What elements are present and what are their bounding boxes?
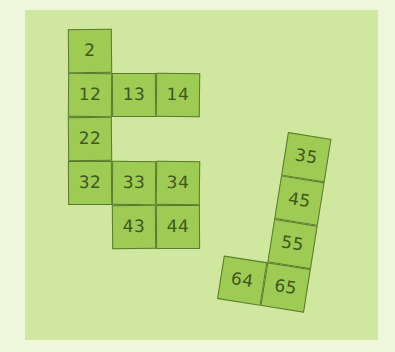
cell-label: 64 (230, 270, 255, 290)
cell-44[interactable]: 44 (156, 205, 200, 249)
cell-13[interactable]: 13 (112, 73, 156, 117)
cell-label: 43 (123, 217, 146, 234)
cell-14[interactable]: 14 (156, 73, 200, 117)
cell-35[interactable]: 35 (281, 132, 331, 182)
cell-34[interactable]: 34 (156, 161, 200, 205)
cell-label: 35 (294, 146, 319, 166)
cell-label: 44 (167, 217, 190, 234)
cell-label: 14 (167, 85, 190, 102)
cell-label: 12 (79, 85, 102, 102)
cell-32[interactable]: 32 (68, 161, 112, 205)
cell-label: 45 (287, 189, 312, 209)
cell-label: 32 (79, 173, 102, 190)
worksheet-panel: 2 12 13 14 22 32 33 34 (25, 10, 378, 340)
cell-65[interactable]: 65 (260, 262, 310, 312)
cell-45[interactable]: 45 (274, 175, 324, 225)
cell-12[interactable]: 12 (68, 73, 112, 117)
cell-label: 13 (123, 85, 146, 102)
cell-2[interactable]: 2 (68, 29, 112, 73)
cell-64[interactable]: 64 (217, 255, 267, 305)
cell-22[interactable]: 22 (68, 117, 112, 161)
cell-label: 34 (167, 173, 190, 190)
cell-label: 55 (280, 233, 305, 253)
cell-33[interactable]: 33 (112, 161, 156, 205)
cell-43[interactable]: 43 (112, 205, 156, 249)
cell-label: 2 (84, 41, 95, 58)
worksheet-canvas: 2 12 13 14 22 32 33 34 (0, 0, 395, 352)
cell-label: 22 (79, 129, 102, 146)
cell-label: 33 (123, 173, 146, 190)
cell-55[interactable]: 55 (267, 219, 317, 269)
cell-label: 65 (273, 276, 298, 296)
